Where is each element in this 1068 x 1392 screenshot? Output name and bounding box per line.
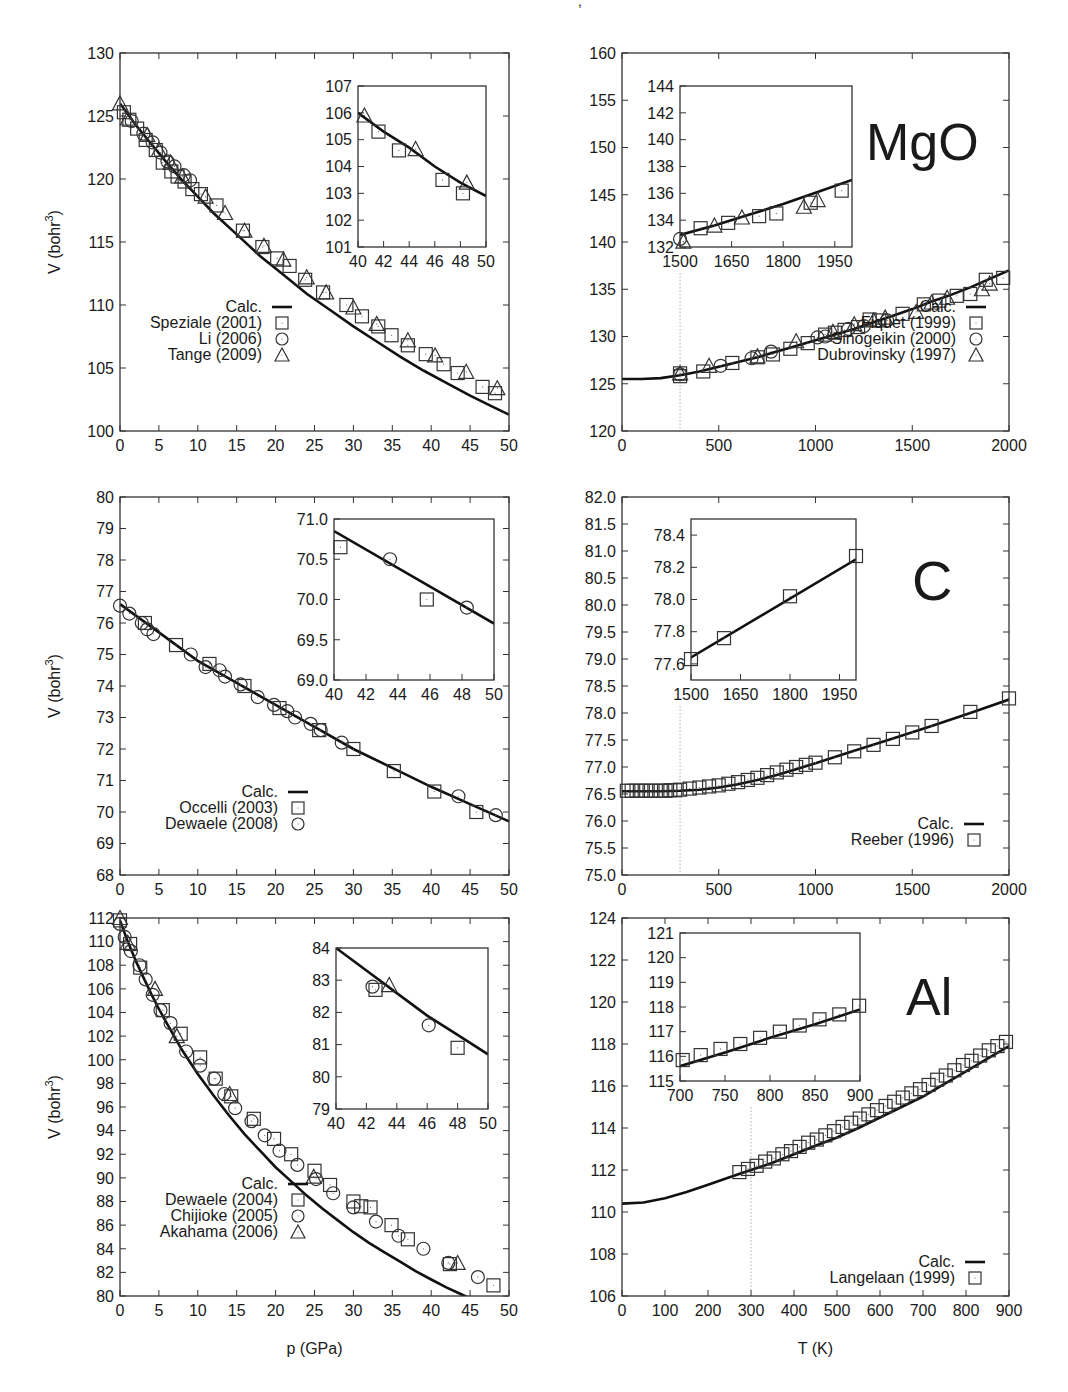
y-tick-label: 160	[589, 45, 616, 62]
x-tick-label: 0	[618, 1302, 627, 1319]
x-tick-label: 15	[228, 881, 246, 898]
marker-center	[297, 1231, 298, 1232]
y-tick-label: 106	[87, 981, 114, 998]
y-tick-label: 72	[96, 741, 114, 758]
y-tick-label: 142	[647, 105, 674, 122]
marker-center	[741, 217, 742, 218]
marker-center	[341, 742, 342, 743]
marker-center	[973, 839, 974, 840]
marker-center	[462, 193, 463, 194]
y-tick-label: 79.5	[585, 624, 616, 641]
x-tick-label: 2000	[991, 437, 1027, 454]
x-tick-label: 40	[422, 1302, 440, 1319]
x-tick-label: 10	[189, 437, 207, 454]
legend-entry-label: Calc.	[919, 1253, 955, 1270]
marker-center	[273, 1138, 274, 1139]
x-tick-label: 48	[453, 686, 471, 703]
x-tick-label: 500	[705, 881, 732, 898]
x-tick-label: 900	[847, 1087, 874, 1104]
marker-center	[297, 823, 298, 824]
marker-center	[458, 796, 459, 797]
marker-center	[139, 965, 140, 966]
marker-center	[224, 1093, 225, 1094]
y-tick-label: 80	[96, 489, 114, 506]
marker-center	[158, 149, 159, 150]
marker-center	[353, 1207, 354, 1208]
marker-center	[294, 717, 295, 718]
y-tick-label: 130	[87, 45, 114, 62]
marker-center	[954, 1070, 955, 1071]
marker-center	[375, 1221, 376, 1222]
material-label: Al	[906, 968, 952, 1026]
marker-center	[975, 338, 976, 339]
y-tick-label: 119	[648, 974, 674, 991]
y-tick-label: 117	[648, 1023, 674, 1040]
marker-center	[253, 1118, 254, 1119]
x-tick-label: 5	[154, 881, 163, 898]
x-tick-label: 10	[189, 881, 207, 898]
y-tick-label: 102	[87, 1028, 114, 1045]
marker-center	[682, 1059, 683, 1060]
x-tick-label: 850	[802, 1087, 829, 1104]
x-tick-label: 200	[695, 1302, 722, 1319]
marker-center	[170, 162, 171, 163]
marker-center	[975, 322, 976, 323]
marker-center	[919, 1089, 920, 1090]
x-tick-label: 400	[781, 1302, 808, 1319]
marker-center	[803, 206, 804, 207]
marker-center	[626, 790, 627, 791]
marker-center	[262, 246, 263, 247]
y-tick-label: 80	[312, 1069, 330, 1086]
marker-center	[700, 228, 701, 229]
y-tick-label: 105	[87, 360, 114, 377]
material-label: C	[912, 549, 952, 612]
x-tick-label: 30	[345, 1302, 363, 1319]
y-tick-label: 94	[96, 1122, 114, 1139]
x-tick-label: 1500	[894, 437, 930, 454]
y-tick-label: 115	[648, 1073, 674, 1090]
legend-entry-label: Dewaele (2004)	[165, 1191, 278, 1208]
y-tick-label: 79	[96, 520, 114, 537]
marker-center	[816, 1139, 817, 1140]
y-tick-label: 81.5	[585, 516, 616, 533]
y-tick-label: 82	[312, 1004, 330, 1021]
y-tick-label: 138	[647, 158, 674, 175]
marker-center	[425, 354, 426, 355]
marker-center	[931, 725, 932, 726]
marker-center	[281, 338, 282, 339]
marker-center	[137, 128, 138, 129]
y-tick-label: 71.0	[297, 511, 328, 528]
x-tick-label: 1950	[822, 686, 858, 703]
marker-center	[679, 376, 680, 377]
marker-center	[974, 1277, 975, 1278]
y-tick-label: 92	[96, 1146, 114, 1163]
marker-center	[497, 388, 498, 389]
marker-center	[426, 599, 427, 600]
y-tick-label: 82	[96, 1264, 114, 1281]
y-tick-label: 71	[96, 772, 114, 789]
x-tick-label: 800	[757, 1087, 784, 1104]
y-tick-label: 84	[96, 1241, 114, 1258]
marker-center	[873, 744, 874, 745]
y-tick-label: 112	[590, 1162, 616, 1179]
marker-center	[728, 222, 729, 223]
marker-center	[457, 1047, 458, 1048]
marker-center	[772, 354, 773, 355]
marker-center	[773, 1158, 774, 1159]
marker-center	[739, 1172, 740, 1173]
y-tick-label: 80.0	[585, 597, 616, 614]
marker-center	[985, 279, 986, 280]
legend-entry-label: Calc.	[226, 298, 262, 315]
marker-center	[732, 362, 733, 363]
x-tick-label: 900	[996, 1302, 1023, 1319]
x-tick-label: 0	[618, 881, 627, 898]
x-tick-label: 1500	[673, 686, 709, 703]
marker-center	[841, 190, 842, 191]
marker-center	[129, 613, 130, 614]
legend-entry-label: Calc.	[918, 815, 954, 832]
marker-center	[224, 676, 225, 677]
marker-center	[257, 696, 258, 697]
marker-center	[205, 667, 206, 668]
marker-center	[333, 1193, 334, 1194]
marker-center	[182, 176, 183, 177]
